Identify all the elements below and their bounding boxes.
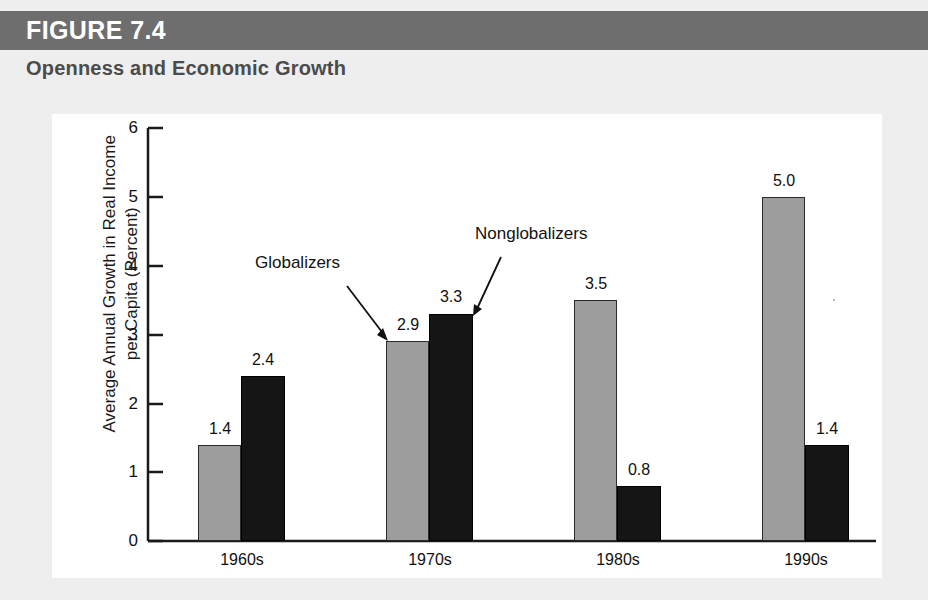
annotation-globalizers: Globalizers	[255, 253, 340, 273]
y-tick-label: 1	[108, 462, 138, 482]
bar-globalizers-1990s	[762, 197, 805, 541]
annotation-nonglobalizers: Nonglobalizers	[475, 224, 587, 244]
nonglobalizers-arrow	[473, 257, 501, 316]
figure-banner: FIGURE 7.4	[0, 11, 928, 50]
bar-nonglobalizers-1980s	[617, 486, 661, 541]
y-tick-label: 2	[108, 394, 138, 414]
value-label-globalizers-1980s: 3.5	[566, 275, 626, 293]
value-label-globalizers-1990s: 5.0	[754, 172, 814, 190]
bar-nonglobalizers-1970s	[429, 314, 473, 541]
figure-subtitle: Openness and Economic Growth	[26, 57, 346, 80]
value-label-globalizers-1970s: 2.9	[378, 316, 438, 334]
value-label-nonglobalizers-1970s: 3.3	[421, 288, 481, 306]
value-label-nonglobalizers-1960s: 2.4	[233, 351, 293, 369]
print-speck	[833, 299, 835, 301]
bar-nonglobalizers-1990s	[805, 445, 849, 541]
y-tick-label: 6	[108, 118, 138, 138]
bar-globalizers-1970s	[386, 341, 429, 541]
value-label-nonglobalizers-1980s: 0.8	[609, 461, 669, 479]
y-tick-label: 0	[108, 531, 138, 551]
y-tick-label: 3	[108, 325, 138, 345]
figure-page: FIGURE 7.4 Openness and Economic Growth …	[0, 0, 928, 600]
bar-globalizers-1980s	[574, 300, 617, 541]
y-tick-label: 4	[108, 256, 138, 276]
x-category-label-1990s: 1990s	[746, 551, 866, 569]
y-tick-label: 5	[108, 187, 138, 207]
x-category-label-1970s: 1970s	[370, 551, 490, 569]
value-label-globalizers-1960s: 1.4	[190, 420, 250, 438]
figure-label: FIGURE 7.4	[26, 16, 166, 45]
bar-globalizers-1960s	[198, 445, 241, 541]
value-label-nonglobalizers-1990s: 1.4	[797, 420, 857, 438]
chart-panel: Average Annual Growth in Real Income per…	[52, 114, 882, 578]
bar-nonglobalizers-1960s	[241, 376, 285, 541]
x-category-label-1980s: 1980s	[558, 551, 678, 569]
x-category-label-1960s: 1960s	[182, 551, 302, 569]
